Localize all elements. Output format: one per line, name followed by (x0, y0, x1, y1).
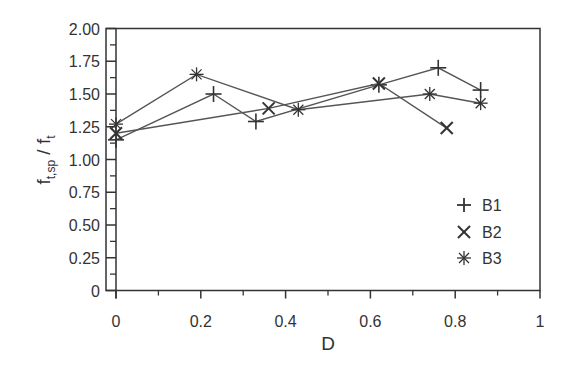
series-layer (108, 60, 489, 148)
x-axis-title: D (321, 333, 335, 354)
plus-marker-icon (473, 82, 489, 98)
x-tick-label: 0.4 (274, 313, 296, 330)
asterisk-marker-icon (190, 67, 204, 81)
x-axis: 00.20.40.60.81 (112, 291, 545, 330)
svg-text:ft,sp / ft: ft,sp / ft (33, 135, 58, 185)
legend-label-b2: B2 (482, 224, 502, 241)
legend-label-b1: B1 (482, 197, 502, 214)
y-axis-title: ft,sp / ft (33, 135, 58, 185)
series-b3 (109, 67, 488, 131)
asterisk-marker-icon (457, 251, 471, 265)
y-tick-label: 2.00 (69, 21, 100, 38)
x-marker-icon (458, 226, 470, 238)
x-tick-label: 1 (536, 313, 545, 330)
legend-item-b3: B3 (457, 250, 502, 267)
y-tick-label: 1.25 (69, 119, 100, 136)
asterisk-marker-icon (109, 117, 123, 131)
legend-item-b1: B1 (457, 197, 502, 214)
y-axis-title-sub1: t,sp (44, 160, 58, 180)
chart: 00.250.500.751.001.251.501.752.00 00.20.… (0, 0, 563, 369)
series-line (116, 84, 447, 134)
x-tick-label: 0.8 (444, 313, 466, 330)
y-tick-label: 0 (91, 283, 100, 300)
plot-frame (106, 29, 540, 291)
legend: B1 B2 B3 (457, 197, 502, 267)
y-tick-label: 0.50 (69, 217, 100, 234)
y-tick-label: 1.50 (69, 86, 100, 103)
x-tick-label: 0.2 (190, 313, 212, 330)
plot-border (106, 29, 540, 291)
x-marker-icon (441, 122, 453, 134)
y-tick-label: 0.25 (69, 250, 100, 267)
plus-marker-icon (206, 86, 222, 102)
asterisk-marker-icon (291, 103, 305, 117)
asterisk-marker-icon (423, 87, 437, 101)
y-tick-label: 1.75 (69, 53, 100, 70)
series-b2 (110, 78, 453, 140)
plus-marker-icon (430, 60, 446, 76)
y-axis: 00.250.500.751.001.251.501.752.00 (69, 21, 116, 300)
x-tick-label: 0 (112, 313, 121, 330)
plus-marker-icon (248, 114, 264, 130)
legend-label-b3: B3 (482, 250, 502, 267)
y-tick-label: 0.75 (69, 184, 100, 201)
y-axis-title-sep: / f (33, 138, 54, 160)
asterisk-marker-icon (474, 96, 488, 110)
y-tick-label: 1.00 (69, 152, 100, 169)
y-axis-title-sub2: t (44, 135, 58, 139)
legend-item-b2: B2 (458, 224, 502, 241)
x-tick-label: 0.6 (359, 313, 381, 330)
plus-marker-icon (457, 198, 471, 212)
